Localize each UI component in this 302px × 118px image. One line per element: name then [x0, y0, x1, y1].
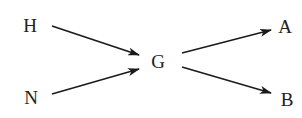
edge-h-to-g: [52, 26, 139, 55]
edge-n-to-g: [52, 69, 139, 94]
node-g: G: [151, 51, 165, 72]
node-a: A: [278, 16, 292, 37]
node-h: H: [23, 15, 37, 36]
node-n: N: [24, 87, 38, 108]
arrow-icon: [182, 30, 271, 53]
arrow-icon: [52, 26, 139, 55]
diagram-canvas: H N G A B: [0, 0, 302, 118]
node-b: B: [281, 89, 294, 110]
edge-g-to-b: [182, 67, 271, 93]
arrow-icon: [52, 69, 139, 94]
edge-g-to-a: [182, 30, 271, 53]
arrow-icon: [182, 67, 271, 93]
